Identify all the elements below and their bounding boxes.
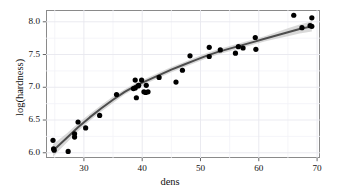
y-tick-label: 6.0 — [14, 148, 40, 157]
chart-figure: 6.06.57.07.58.0 3040506070 dens log(hard… — [0, 0, 340, 193]
y-tick-label: 6.5 — [14, 115, 40, 124]
x-tick-label: 40 — [127, 164, 157, 173]
x-tick-label: 70 — [302, 164, 332, 173]
x-axis-title: dens — [0, 176, 340, 187]
y-tick-label: 8.0 — [14, 17, 40, 26]
y-tick-label: 7.5 — [14, 50, 40, 59]
y-axis-title: log(hardness) — [14, 59, 25, 116]
loess-smooth-line — [53, 26, 312, 150]
plot-canvas — [0, 0, 340, 193]
x-tick-label: 50 — [185, 164, 215, 173]
x-tick-label: 30 — [69, 164, 99, 173]
x-tick-label: 60 — [244, 164, 274, 173]
